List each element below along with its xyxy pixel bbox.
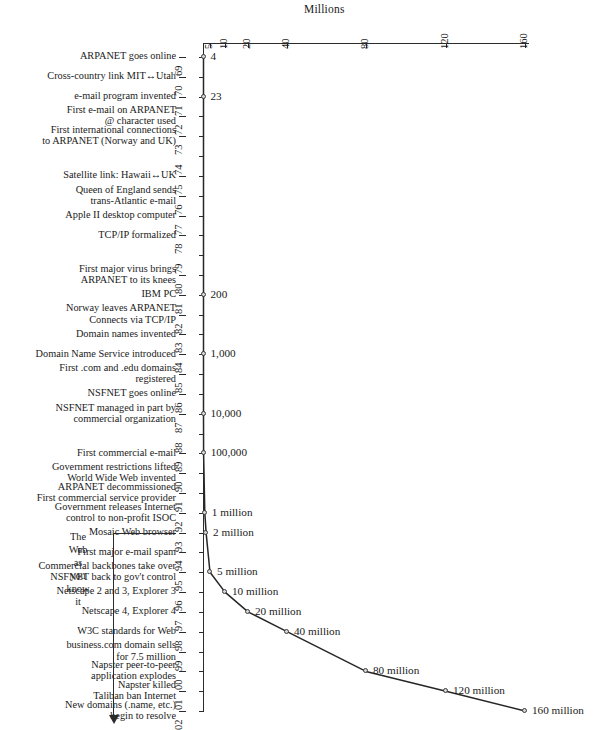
- year-tick: [199, 255, 204, 256]
- data-point-label: 2 million: [213, 526, 254, 538]
- event-connector-dash: [179, 414, 186, 415]
- data-point-label: 1,000: [211, 347, 236, 359]
- event-connector-dash: [179, 136, 186, 137]
- timeline-event-label: ARPANET goes online: [0, 50, 176, 61]
- data-point-marker: [522, 708, 527, 713]
- timeline-event-label: Norway leaves ARPANETConnects via TCP/IP: [0, 302, 176, 324]
- event-connector-dash: [179, 275, 186, 276]
- data-point-marker: [284, 629, 289, 634]
- timeline-event-label: W3C standards for Web: [0, 625, 176, 636]
- data-point-label: 20 million: [255, 605, 301, 617]
- x-axis-tick-label: 10: [218, 39, 229, 50]
- event-connector-dash: [179, 295, 186, 296]
- x-axis-tick-label: 120: [439, 33, 450, 49]
- data-point-label: 23: [211, 90, 222, 102]
- data-point-label: 120 million: [453, 684, 505, 696]
- event-connector-dash: [179, 652, 186, 653]
- event-connector-dash: [179, 394, 186, 395]
- timeline-event-label: First international connectionsto ARPANE…: [0, 124, 176, 146]
- timeline-event-label: First .com and .edu domainsregistered: [0, 362, 176, 384]
- data-point-marker: [201, 450, 206, 455]
- event-connector-dash: [179, 77, 186, 78]
- data-point-marker: [443, 688, 448, 693]
- timeline-event-label: New domains (.name, etc.)begin to resolv…: [0, 699, 176, 721]
- data-point-marker: [201, 411, 206, 416]
- year-tick: [199, 275, 204, 276]
- year-tick: [199, 216, 204, 217]
- event-connector-dash: [179, 453, 186, 454]
- timeline-event-label: Satellite link: Hawaii↔UK: [0, 169, 176, 180]
- year-tick: [199, 711, 204, 712]
- axis-title: Millions: [304, 3, 345, 15]
- year-tick: [199, 671, 204, 672]
- event-connector-dash: [179, 493, 186, 494]
- year-tick: [199, 116, 204, 117]
- timeline-event-label: First commercial e-mail: [0, 447, 176, 458]
- data-point-marker: [207, 569, 212, 574]
- year-label: 78: [173, 244, 184, 255]
- x-axis-tick-label: 20: [241, 39, 252, 50]
- event-connector-dash: [179, 612, 186, 613]
- event-connector-dash: [179, 57, 186, 58]
- timeline-event-label: Cross-country link MIT↔Utah: [0, 70, 176, 81]
- event-connector-dash: [179, 671, 186, 672]
- data-point-marker: [222, 589, 227, 594]
- year-tick: [199, 334, 204, 335]
- event-connector-dash: [179, 711, 186, 712]
- year-tick: [199, 315, 204, 316]
- timeline-event-label: Domain names invented: [0, 328, 176, 339]
- event-connector-dash: [179, 354, 186, 355]
- year-tick: [199, 176, 204, 177]
- year-tick: [199, 691, 204, 692]
- event-connector-dash: [179, 533, 186, 534]
- year-tick: [199, 235, 204, 236]
- bracket-vertical-line: [113, 533, 114, 715]
- x-axis-tick-label: 160: [518, 33, 529, 49]
- event-connector-dash: [179, 632, 186, 633]
- data-point-marker: [202, 510, 207, 515]
- year-tick: [199, 196, 204, 197]
- data-point-marker: [363, 668, 368, 673]
- timeline-event-label: First major virus bringsARPANET to its k…: [0, 263, 176, 285]
- timeline-event-label: Government releases Internetcontrol to n…: [0, 501, 176, 523]
- data-point-label: 80 million: [373, 664, 419, 676]
- data-point-marker: [203, 530, 208, 535]
- event-connector-dash: [179, 97, 186, 98]
- event-connector-dash: [179, 513, 186, 514]
- year-tick: [199, 612, 204, 613]
- data-point-marker: [201, 292, 206, 297]
- timeline-event-label: TCP/IP formalized: [0, 229, 176, 240]
- event-connector-dash: [179, 473, 186, 474]
- year-tick: [199, 493, 204, 494]
- timeline-event-label: Apple II desktop computer: [0, 209, 176, 220]
- year-tick: [199, 652, 204, 653]
- timeline-event-label: NSFNET managed in part bycommercial orga…: [0, 402, 176, 424]
- timeline-event-label: NSFNET goes online: [0, 387, 176, 398]
- event-connector-dash: [179, 691, 186, 692]
- event-connector-dash: [179, 334, 186, 335]
- data-point-label: 5 million: [217, 565, 258, 577]
- year-tick: [199, 136, 204, 137]
- event-connector-dash: [179, 552, 186, 553]
- x-axis-tick-label: 40: [280, 39, 291, 50]
- bracket-arrowhead: [109, 715, 119, 724]
- vertical-axis-line: [203, 43, 204, 711]
- data-point-label: 100,000: [211, 446, 247, 458]
- data-point-marker: [201, 94, 206, 99]
- event-connector-dash: [179, 592, 186, 593]
- data-point-label: 40 million: [294, 625, 340, 637]
- year-tick: [199, 156, 204, 157]
- bracket-horizontal-line: [113, 533, 176, 534]
- year-tick: [199, 374, 204, 375]
- timeline-event-label: Queen of England sendstrans-Atlantic e-m…: [0, 184, 176, 206]
- data-point-marker: [245, 609, 250, 614]
- bracket-caption: TheWebasyouknowit: [58, 530, 98, 608]
- timeline-event-label: IBM PC: [0, 288, 176, 299]
- event-connector-dash: [179, 374, 186, 375]
- data-point-label: 10 million: [232, 585, 278, 597]
- year-tick: [199, 552, 204, 553]
- year-tick: [199, 434, 204, 435]
- event-connector-dash: [179, 235, 186, 236]
- year-tick: [199, 572, 204, 573]
